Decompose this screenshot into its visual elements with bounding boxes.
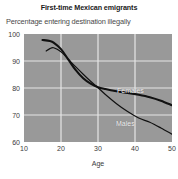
y-tick-label: 100 bbox=[8, 31, 20, 38]
chart-title: First-time Mexican emigrants bbox=[0, 3, 178, 12]
plot-svg bbox=[24, 34, 172, 142]
series-label-females: Females bbox=[117, 87, 144, 94]
y-axis-tick-labels: 60708090100 bbox=[0, 34, 22, 142]
x-tick-label: 10 bbox=[20, 145, 28, 152]
x-axis-title: Age bbox=[24, 160, 172, 167]
plot-area bbox=[24, 34, 172, 142]
y-tick-label: 60 bbox=[12, 139, 20, 146]
x-axis-tick-labels: 1020304050 bbox=[24, 145, 172, 157]
y-tick-label: 90 bbox=[12, 58, 20, 65]
chart-subtitle: Percentage entering destination illegall… bbox=[6, 17, 131, 26]
chart-card: First-time Mexican emigrants Percentage … bbox=[0, 0, 178, 179]
x-tick-label: 20 bbox=[57, 145, 65, 152]
y-tick-label: 70 bbox=[12, 112, 20, 119]
y-tick-label: 80 bbox=[12, 85, 20, 92]
x-tick-label: 30 bbox=[94, 145, 102, 152]
series-label-males: Males bbox=[116, 120, 135, 127]
x-tick-label: 40 bbox=[131, 145, 139, 152]
x-tick-label: 50 bbox=[168, 145, 176, 152]
